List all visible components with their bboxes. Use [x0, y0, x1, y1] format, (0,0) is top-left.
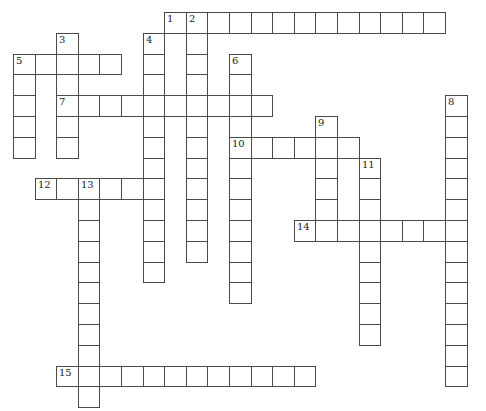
crossword-cell[interactable] — [229, 199, 252, 221]
crossword-cell[interactable] — [359, 324, 381, 346]
crossword-cell[interactable] — [207, 95, 230, 117]
crossword-cell[interactable] — [186, 33, 208, 55]
crossword-cell[interactable] — [186, 366, 208, 387]
crossword-cell[interactable] — [229, 12, 252, 34]
crossword-cell[interactable]: 4 — [143, 33, 165, 55]
crossword-cell[interactable] — [359, 303, 381, 325]
crossword-cell[interactable] — [272, 12, 295, 34]
crossword-cell[interactable] — [143, 116, 165, 138]
crossword-cell[interactable] — [315, 220, 338, 242]
crossword-cell[interactable] — [56, 137, 79, 159]
crossword-cell[interactable] — [229, 282, 252, 304]
crossword-cell[interactable] — [402, 12, 424, 34]
crossword-cell[interactable] — [251, 366, 273, 387]
crossword-cell[interactable] — [315, 178, 338, 200]
crossword-cell[interactable] — [229, 220, 252, 242]
crossword-cell[interactable] — [78, 95, 100, 117]
crossword-cell[interactable] — [78, 366, 100, 387]
crossword-cell[interactable] — [143, 137, 165, 159]
crossword-cell[interactable] — [143, 74, 165, 96]
crossword-cell[interactable] — [359, 12, 381, 34]
crossword-cell[interactable] — [13, 74, 36, 96]
crossword-cell[interactable] — [337, 220, 360, 242]
crossword-cell[interactable] — [35, 54, 57, 75]
crossword-cell[interactable] — [78, 324, 100, 346]
crossword-cell[interactable] — [186, 116, 208, 138]
crossword-cell[interactable] — [229, 74, 252, 96]
crossword-cell[interactable] — [315, 137, 338, 159]
crossword-cell[interactable] — [78, 262, 100, 283]
crossword-cell[interactable] — [251, 137, 273, 159]
crossword-cell[interactable] — [229, 241, 252, 263]
crossword-cell[interactable] — [78, 220, 100, 242]
crossword-cell[interactable] — [445, 199, 468, 221]
crossword-cell[interactable] — [78, 282, 100, 304]
crossword-cell[interactable] — [78, 54, 100, 75]
crossword-cell[interactable]: 5 — [13, 54, 36, 75]
crossword-cell[interactable]: 8 — [445, 95, 468, 117]
crossword-cell[interactable] — [294, 366, 316, 387]
crossword-cell[interactable]: 6 — [229, 54, 252, 75]
crossword-cell[interactable] — [56, 54, 79, 75]
crossword-cell[interactable]: 2 — [186, 12, 208, 34]
crossword-cell[interactable] — [186, 199, 208, 221]
crossword-cell[interactable] — [13, 95, 36, 117]
crossword-cell[interactable] — [186, 95, 208, 117]
crossword-cell[interactable] — [143, 178, 165, 200]
crossword-cell[interactable] — [56, 116, 79, 138]
crossword-cell[interactable] — [143, 366, 165, 387]
crossword-cell[interactable] — [359, 220, 381, 242]
crossword-cell[interactable] — [121, 366, 144, 387]
crossword-cell[interactable] — [78, 345, 100, 367]
crossword-cell[interactable] — [229, 95, 252, 117]
crossword-cell[interactable] — [445, 220, 468, 242]
crossword-cell[interactable] — [359, 282, 381, 304]
crossword-cell[interactable] — [315, 12, 338, 34]
crossword-cell[interactable] — [143, 262, 165, 283]
crossword-cell[interactable] — [229, 116, 252, 138]
crossword-cell[interactable] — [229, 158, 252, 179]
crossword-cell[interactable] — [78, 303, 100, 325]
crossword-cell[interactable] — [186, 74, 208, 96]
crossword-cell[interactable] — [402, 220, 424, 242]
crossword-cell[interactable]: 12 — [35, 178, 57, 200]
crossword-cell[interactable] — [121, 178, 144, 200]
crossword-cell[interactable] — [251, 95, 273, 117]
crossword-cell[interactable]: 1 — [164, 12, 187, 34]
crossword-cell[interactable]: 15 — [56, 366, 79, 387]
crossword-cell[interactable] — [164, 366, 187, 387]
crossword-cell[interactable] — [229, 366, 252, 387]
crossword-cell[interactable]: 11 — [359, 158, 381, 179]
crossword-cell[interactable] — [186, 220, 208, 242]
crossword-cell[interactable] — [337, 137, 360, 159]
crossword-cell[interactable]: 14 — [294, 220, 316, 242]
crossword-cell[interactable] — [359, 241, 381, 263]
crossword-cell[interactable] — [99, 366, 122, 387]
crossword-cell[interactable] — [99, 95, 122, 117]
crossword-cell[interactable] — [423, 220, 446, 242]
crossword-cell[interactable]: 7 — [56, 95, 79, 117]
crossword-cell[interactable] — [380, 12, 403, 34]
crossword-cell[interactable] — [13, 137, 36, 159]
crossword-cell[interactable]: 10 — [229, 137, 252, 159]
crossword-cell[interactable] — [78, 199, 100, 221]
crossword-cell[interactable] — [423, 12, 446, 34]
crossword-cell[interactable] — [207, 12, 230, 34]
crossword-cell[interactable] — [445, 324, 468, 346]
crossword-cell[interactable] — [143, 199, 165, 221]
crossword-cell[interactable]: 13 — [78, 178, 100, 200]
crossword-cell[interactable] — [445, 345, 468, 367]
crossword-cell[interactable] — [294, 12, 316, 34]
crossword-cell[interactable] — [272, 137, 295, 159]
crossword-cell[interactable] — [186, 241, 208, 263]
crossword-cell[interactable] — [337, 12, 360, 34]
crossword-cell[interactable] — [229, 262, 252, 283]
crossword-cell[interactable] — [143, 220, 165, 242]
crossword-cell[interactable] — [445, 158, 468, 179]
crossword-cell[interactable] — [445, 116, 468, 138]
crossword-cell[interactable] — [186, 158, 208, 179]
crossword-cell[interactable] — [164, 95, 187, 117]
crossword-cell[interactable] — [380, 220, 403, 242]
crossword-cell[interactable] — [359, 178, 381, 200]
crossword-cell[interactable]: 9 — [315, 116, 338, 138]
